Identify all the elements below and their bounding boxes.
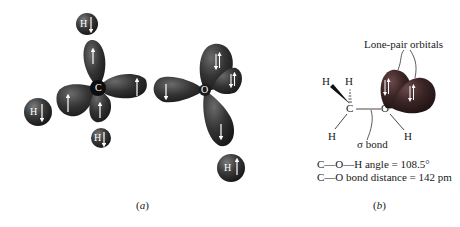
h-wedge-label: H	[322, 76, 330, 87]
oxygen-orbital-group	[154, 44, 242, 146]
h-on-oxygen-label: H	[404, 131, 412, 142]
hydrogen-top-label: H	[80, 19, 87, 29]
caption-a: (a)	[136, 199, 149, 211]
hydrogen-left-label: H	[30, 107, 37, 117]
carbon-label-a: C	[95, 83, 102, 93]
caption-b: (b)	[373, 199, 386, 211]
o-h-bond	[390, 114, 404, 130]
h-lower-left-label: H	[328, 131, 336, 142]
wedge-bond	[330, 84, 350, 104]
oxygen-label-a: O	[201, 85, 208, 95]
lone-pair-orbitals-label: Lone-pair orbitals	[364, 39, 443, 50]
oxygen-lobe-bottom	[203, 90, 234, 146]
carbon-lobe-top	[83, 40, 105, 88]
c-h-bond-lower	[335, 114, 347, 129]
hydrogen-on-oxygen-label: H	[224, 163, 231, 173]
oxygen-lobe-left	[154, 77, 205, 103]
hydrogen-bottom-label: H	[94, 133, 101, 143]
hydrogen-left	[24, 98, 52, 126]
sigma-leader-line	[367, 110, 372, 140]
info-angle-line: C—O—H angle = 108.5°	[317, 158, 430, 171]
info-distance-line: C—O bond distance = 142 pm	[317, 171, 452, 184]
oxygen-label-b: O	[381, 103, 389, 114]
carbon-label-b: C	[346, 103, 353, 114]
orbital-figure	[0, 0, 460, 227]
h-hash-label: H	[345, 76, 353, 87]
hashed-bond	[348, 90, 352, 102]
sigma-bond-label: σ bond	[357, 139, 388, 150]
